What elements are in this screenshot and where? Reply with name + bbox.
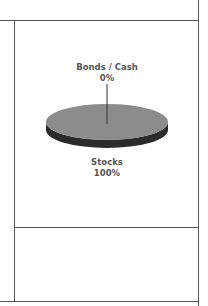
slice-value-stocks: 100% <box>94 168 121 178</box>
allocation-pie-chart: Bonds / Cash 0% Stocks 100% <box>0 0 208 306</box>
slice-label-bonds-cash: Bonds / Cash <box>76 62 138 72</box>
slice-value-bonds-cash: 0% <box>100 73 115 83</box>
slice-label-stocks: Stocks <box>91 157 123 167</box>
